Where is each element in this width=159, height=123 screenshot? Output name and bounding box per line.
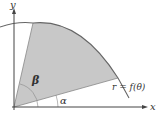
angle-arc-alpha: [56, 95, 58, 107]
x-axis-label: x: [150, 101, 156, 112]
polar-region-diagram: y x r = f(θ) β α: [0, 0, 159, 123]
alpha-label: α: [60, 95, 67, 106]
y-axis-label: y: [9, 0, 16, 10]
x-axis-arrow-icon: [142, 105, 148, 109]
beta-label: β: [31, 74, 40, 87]
curve-label: r = f(θ): [112, 82, 146, 92]
